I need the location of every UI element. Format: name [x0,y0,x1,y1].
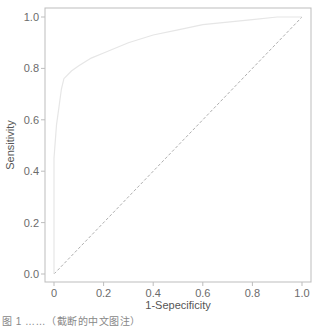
y-axis: 0.00.20.40.60.81.0 [24,11,45,280]
x-tick-label: 0.2 [96,287,111,299]
x-tick-label: 0.4 [146,287,161,299]
x-axis: 00.20.40.60.81.0 [51,282,310,299]
x-tick-label: 0.6 [195,287,210,299]
x-tick-label: 0.8 [245,287,260,299]
y-tick-label: 0.0 [24,268,39,280]
y-tick-label: 0.4 [24,165,39,177]
x-axis-title: 1-Sepecificity [145,299,211,311]
roc-curve-line [54,17,302,274]
y-tick-label: 1.0 [24,11,39,23]
y-tick-label: 0.2 [24,217,39,229]
reference-diagonal-line [54,17,302,274]
y-tick-label: 0.8 [24,62,39,74]
y-tick-label: 0.6 [24,114,39,126]
figure-caption: 图 1 ……（截断的中文图注） [2,316,318,328]
x-tick-label: 0 [51,287,57,299]
y-axis-title: Sensitivity [4,120,16,170]
x-tick-label: 1.0 [294,287,309,299]
